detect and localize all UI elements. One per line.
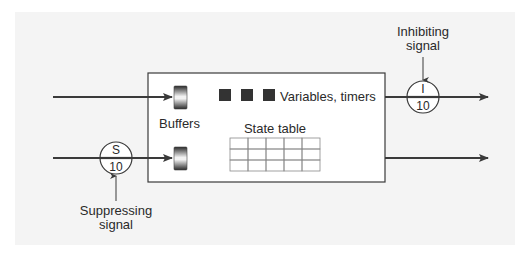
variable-timer-square (241, 89, 253, 101)
inhibiting-caption-line1: Inhibiting (397, 24, 449, 39)
buffer-bottom (174, 147, 187, 170)
inhibitor-value: 10 (416, 99, 430, 113)
buffers-label: Buffers (159, 116, 200, 131)
variables-timers-group (219, 89, 275, 101)
suppressing-caption-line2: signal (99, 217, 133, 232)
variable-timer-square (263, 89, 275, 101)
suppressor-letter: S (112, 143, 120, 157)
diagram-canvas: Buffers Variables, timers State table S … (0, 0, 530, 256)
suppressor-node: S 10 (100, 142, 132, 174)
inhibitor-letter: I (421, 82, 424, 96)
suppressing-caption-line1: Suppressing (80, 203, 152, 218)
inhibitor-node: I 10 (407, 81, 439, 113)
inhibiting-caption-line2: signal (406, 38, 440, 53)
variable-timer-square (219, 89, 231, 101)
suppressor-value: 10 (109, 160, 123, 174)
buffer-top (174, 86, 187, 109)
state-table-label: State table (244, 121, 306, 136)
variables-label: Variables, timers (280, 89, 376, 104)
